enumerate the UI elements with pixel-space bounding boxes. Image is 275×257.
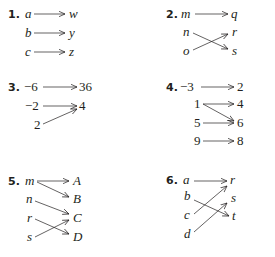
mapping-diagram-5: 5.mnrsABCD <box>8 173 83 244</box>
mapping-diagram-1: 1.abcwyz <box>8 6 78 59</box>
arrow-icon <box>35 219 69 234</box>
range-element: 4 <box>237 96 244 111</box>
domain-element: o <box>183 43 190 58</box>
range-element: B <box>73 191 81 206</box>
domain-element: a <box>183 172 190 187</box>
range-element: 2 <box>237 79 244 94</box>
domain-element: −3 <box>180 79 194 94</box>
domain-element: 5 <box>194 115 201 130</box>
arrow-icon <box>35 201 69 214</box>
range-element: C <box>73 210 82 225</box>
arrow-icon <box>194 186 227 214</box>
arrow-icon <box>194 200 229 216</box>
domain-element: r <box>27 210 33 225</box>
domain-element: c <box>25 44 31 59</box>
domain-element: b <box>184 188 191 203</box>
domain-element: m <box>25 173 34 188</box>
domain-element: c <box>184 207 190 222</box>
domain-element: n <box>26 191 33 206</box>
problem-number: 5. <box>8 175 20 188</box>
range-element: r <box>230 172 236 187</box>
range-element: s <box>231 190 236 205</box>
domain-element: n <box>183 24 190 39</box>
range-element: A <box>72 173 81 188</box>
range-element: w <box>69 6 78 21</box>
problem-number: 1. <box>8 8 20 21</box>
range-element: 8 <box>237 133 244 148</box>
domain-element: −2 <box>25 98 39 113</box>
arrow-icon <box>193 34 228 50</box>
domain-element: 2 <box>34 117 41 132</box>
domain-element: m <box>181 6 190 21</box>
domain-element: d <box>184 226 191 241</box>
arrow-icon <box>203 104 234 121</box>
domain-element: a <box>25 6 32 21</box>
range-element: 4 <box>79 98 86 113</box>
range-element: r <box>232 24 238 39</box>
mapping-diagram-2: 2.mnoqrs <box>166 6 238 58</box>
problem-number: 2. <box>166 8 178 21</box>
problem-number: 6. <box>166 174 178 187</box>
mapping-diagram-3: 3.−6−22364 <box>8 79 93 132</box>
range-element: 36 <box>79 79 93 94</box>
range-element: s <box>232 43 237 58</box>
range-element: y <box>67 25 75 40</box>
range-element: 6 <box>237 115 244 130</box>
domain-element: 9 <box>194 133 201 148</box>
arrow-icon <box>43 109 77 124</box>
arrow-icon <box>37 182 69 197</box>
range-element: t <box>232 208 236 223</box>
range-element: q <box>231 6 238 21</box>
mapping-diagrams: 1.abcwyz2.mnoqrs3.−6−223644.−315924685.m… <box>0 0 275 257</box>
problem-number: 4. <box>166 81 178 94</box>
domain-element: −6 <box>24 79 38 94</box>
domain-element: 1 <box>194 96 201 111</box>
arrow-icon <box>193 33 228 49</box>
domain-element: s <box>27 229 32 244</box>
arrow-icon <box>35 220 69 237</box>
domain-element: b <box>25 25 32 40</box>
mapping-diagram-4: 4.−31592468 <box>166 79 244 148</box>
range-element: z <box>68 44 74 59</box>
problem-number: 3. <box>8 81 20 94</box>
mapping-diagram-6: 6.abcdrst <box>166 172 236 241</box>
range-element: D <box>72 229 83 244</box>
